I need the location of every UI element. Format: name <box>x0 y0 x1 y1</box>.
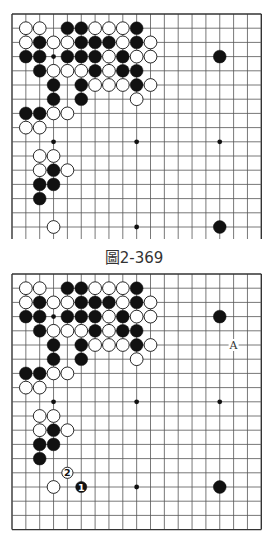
go-board-grid <box>0 0 268 245</box>
black-stone-icon <box>75 310 88 323</box>
white-stone-icon <box>130 93 143 106</box>
white-stone-icon <box>130 353 143 366</box>
black-stone-icon <box>75 339 88 352</box>
star-point-icon <box>51 314 56 319</box>
black-stone-icon <box>47 438 60 451</box>
white-stone-icon <box>19 36 32 49</box>
black-stone-icon <box>89 310 102 323</box>
white-stone-icon <box>47 36 60 49</box>
star-point-icon <box>51 399 56 404</box>
black-stone-icon <box>130 36 143 49</box>
black-stone-icon <box>130 64 143 77</box>
go-board-diagram-1 <box>0 0 268 245</box>
black-stone-icon <box>130 22 143 35</box>
black-stone-icon <box>89 64 102 77</box>
white-stone-icon <box>33 164 46 177</box>
white-stone-icon <box>47 324 60 337</box>
black-stone-icon <box>33 192 46 205</box>
white-stone-icon <box>47 481 60 494</box>
black-stone-icon <box>47 339 60 352</box>
white-stone-icon <box>47 410 60 423</box>
white-stone-icon <box>19 121 32 134</box>
white-stone-icon <box>61 324 74 337</box>
black-stone-icon <box>130 296 143 309</box>
white-stone-icon <box>47 296 60 309</box>
black-stone-icon <box>47 424 60 437</box>
black-stone-icon <box>130 282 143 295</box>
board-label-a: A <box>229 339 239 352</box>
black-stone-icon <box>116 50 129 63</box>
white-stone-icon <box>89 282 102 295</box>
white-stone-icon <box>144 339 157 352</box>
black-stone-icon <box>130 339 143 352</box>
black-stone-icon <box>61 310 74 323</box>
black-stone-icon <box>75 50 88 63</box>
white-stone-icon <box>116 282 129 295</box>
white-stone-icon <box>144 296 157 309</box>
white-stone-icon <box>33 381 46 394</box>
white-stone-icon <box>75 324 88 337</box>
black-stone-icon <box>75 22 88 35</box>
star-point-icon <box>51 139 56 144</box>
white-stone-icon <box>19 296 32 309</box>
black-stone-icon <box>33 296 46 309</box>
white-stone-icon <box>47 367 60 380</box>
black-stone-icon <box>75 282 88 295</box>
star-point-icon <box>217 139 222 144</box>
black-stone-icon <box>89 50 102 63</box>
black-stone-icon <box>19 310 32 323</box>
black-stone-icon <box>19 107 32 120</box>
white-stone-icon <box>61 164 74 177</box>
black-stone-icon <box>33 438 46 451</box>
white-stone-icon <box>116 22 129 35</box>
white-stone-icon <box>33 150 46 163</box>
black-stone-icon <box>89 36 102 49</box>
white-stone-icon <box>33 424 46 437</box>
star-point-icon <box>134 139 139 144</box>
black-stone-icon <box>61 282 74 295</box>
white-stone-icon <box>61 64 74 77</box>
black-stone-icon <box>75 296 88 309</box>
white-stone-icon <box>116 339 129 352</box>
white-stone-icon <box>47 107 60 120</box>
go-board-diagram-2: A21 <box>0 260 268 540</box>
black-stone-icon <box>47 178 60 191</box>
black-stone-icon <box>47 79 60 92</box>
black-stone-icon <box>213 221 226 234</box>
white-stone-icon <box>19 381 32 394</box>
black-stone-icon <box>130 79 143 92</box>
move-number-label: 2 <box>64 467 71 478</box>
black-stone-icon <box>33 310 46 323</box>
white-stone-icon <box>116 36 129 49</box>
white-stone-icon <box>130 50 143 63</box>
black-stone-icon <box>47 164 60 177</box>
black-stone-icon <box>75 353 88 366</box>
black-stone-icon <box>61 22 74 35</box>
black-stone-icon <box>116 324 129 337</box>
white-stone-icon <box>103 310 116 323</box>
white-stone-icon <box>47 221 60 234</box>
white-stone-icon <box>33 410 46 423</box>
black-stone-icon <box>47 93 60 106</box>
star-point-icon <box>134 399 139 404</box>
white-stone-icon <box>89 339 102 352</box>
white-stone-icon <box>61 36 74 49</box>
white-stone-icon <box>33 121 46 134</box>
white-stone-icon <box>75 64 88 77</box>
black-stone-icon <box>213 310 226 323</box>
white-stone-icon <box>103 282 116 295</box>
star-point-icon <box>217 399 222 404</box>
black-stone-icon <box>33 324 46 337</box>
white-stone-icon <box>116 79 129 92</box>
star-point-icon <box>51 54 56 59</box>
star-point-icon <box>134 225 139 230</box>
black-stone-icon <box>33 36 46 49</box>
black-stone-icon <box>116 310 129 323</box>
black-stone-icon <box>19 50 32 63</box>
black-stone-icon <box>61 50 74 63</box>
black-stone-icon <box>213 50 226 63</box>
black-stone-icon <box>33 367 46 380</box>
black-stone-icon <box>75 36 88 49</box>
black-stone-icon <box>103 296 116 309</box>
white-stone-icon <box>103 22 116 35</box>
